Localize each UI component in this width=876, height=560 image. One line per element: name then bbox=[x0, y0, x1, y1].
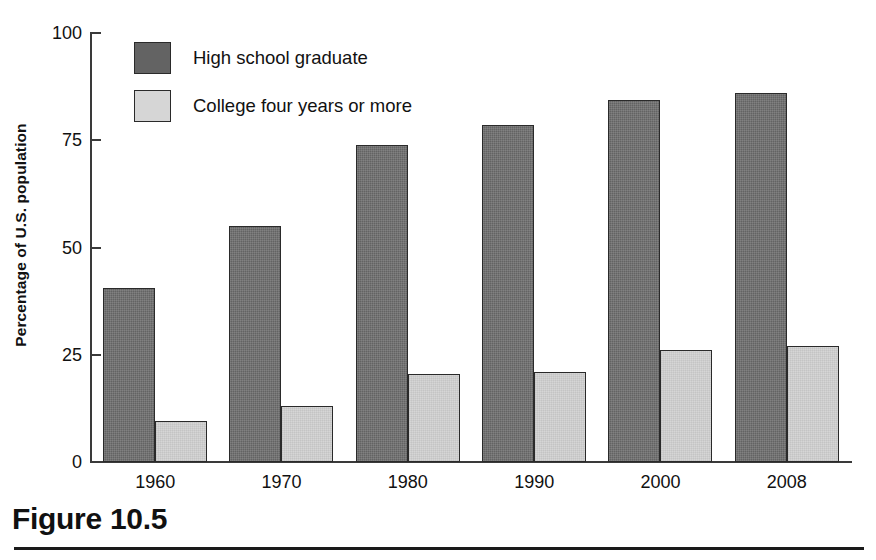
x-axis-label-1980: 1980 bbox=[348, 472, 468, 493]
x-axis-label-2000: 2000 bbox=[601, 472, 721, 493]
legend-swatch-college bbox=[134, 90, 171, 122]
bar-group-2000 bbox=[597, 33, 723, 462]
bar-1960-high-school bbox=[103, 288, 155, 462]
bar-1970-college bbox=[281, 406, 333, 462]
bar-group-1990 bbox=[471, 33, 597, 462]
caption-divider bbox=[14, 547, 864, 550]
y-axis-title: Percentage of U.S. population bbox=[4, 0, 38, 470]
legend-item-high-school: High school graduate bbox=[134, 41, 412, 75]
bar-2000-high-school bbox=[608, 100, 660, 463]
legend-swatch-high-school bbox=[134, 42, 171, 74]
bar-1980-college bbox=[408, 374, 460, 462]
bar-2008-high-school bbox=[735, 93, 787, 462]
bar-1970-high-school bbox=[229, 226, 281, 462]
bar-chart: Percentage of U.S. population 0255075100… bbox=[0, 0, 876, 500]
y-tick-label-100: 100 bbox=[38, 23, 82, 44]
y-tick-label-0: 0 bbox=[38, 452, 82, 473]
x-axis-label-1960: 1960 bbox=[95, 472, 215, 493]
legend-label-high-school: High school graduate bbox=[193, 47, 368, 69]
x-axis-label-1970: 1970 bbox=[222, 472, 342, 493]
x-axis-label-2008: 2008 bbox=[727, 472, 847, 493]
chart-legend: High school graduate College four years … bbox=[134, 41, 412, 137]
bar-1980-high-school bbox=[356, 145, 408, 462]
bar-1960-college bbox=[155, 421, 207, 462]
bar-1990-high-school bbox=[482, 125, 534, 462]
figure-10-5: Percentage of U.S. population 0255075100… bbox=[0, 0, 876, 560]
figure-caption-block: Figure 10.5 bbox=[0, 500, 876, 560]
bar-2008-college bbox=[787, 346, 839, 462]
y-tick-label-50: 50 bbox=[38, 237, 82, 258]
bar-1990-college bbox=[534, 372, 586, 462]
legend-item-college: College four years or more bbox=[134, 89, 412, 123]
bar-2000-college bbox=[660, 350, 712, 462]
bar-group-2008 bbox=[724, 33, 850, 462]
y-axis-title-text: Percentage of U.S. population bbox=[12, 123, 30, 346]
figure-caption: Figure 10.5 bbox=[12, 502, 167, 536]
legend-label-college: College four years or more bbox=[193, 95, 412, 117]
y-tick-label-25: 25 bbox=[38, 344, 82, 365]
y-tick-label-75: 75 bbox=[38, 130, 82, 151]
x-axis-label-1990: 1990 bbox=[474, 472, 594, 493]
